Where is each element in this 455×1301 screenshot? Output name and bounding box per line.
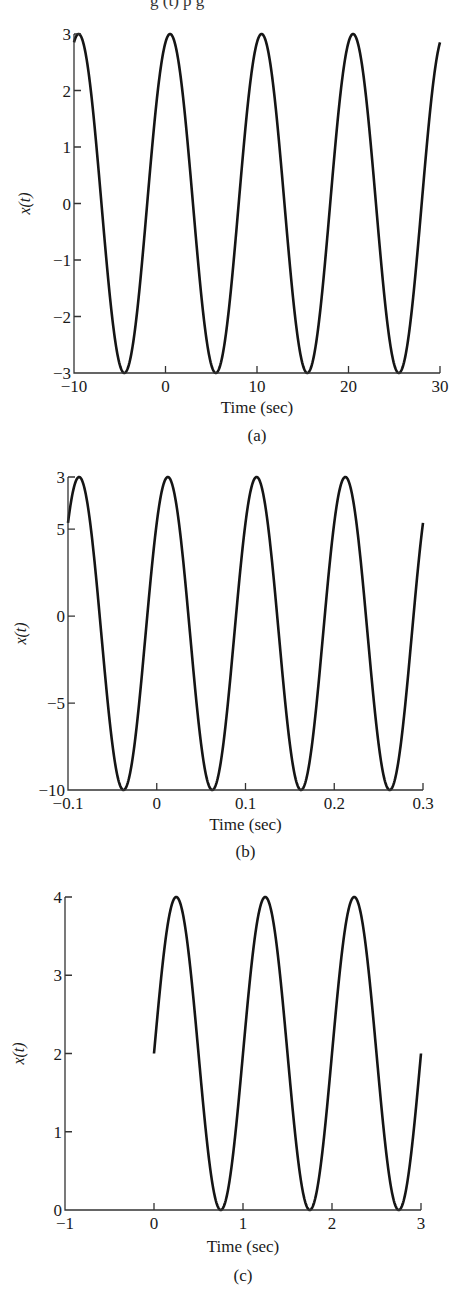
figure-canvas: 3210−1−2−3 −100102030 Time (sec) x(t) (a… [0,0,455,1301]
x-tick-label: −10 [61,377,88,396]
x-tick-label: 0.1 [235,794,256,813]
y-tick-labels-b: 350−5−10 [38,468,65,800]
x-tick-label: 0.2 [324,794,345,813]
x-axis-title-c: Time (sec) [207,1237,280,1256]
y-tick-label: 4 [54,888,63,907]
curve-b [68,477,423,790]
y-tick-label: 5 [57,520,66,539]
y-tick-label: −2 [53,308,71,327]
x-tick-label: 0 [153,794,162,813]
x-tick-label: 30 [432,377,449,396]
chart-a: 3210−1−2−3 −100102030 Time (sec) x(t) (a… [16,25,449,445]
caption-a: (a) [248,426,267,445]
y-tick-label: 2 [54,1045,63,1064]
x-tick-label: −1 [56,1214,74,1233]
y-axis-title-c: x(t) [10,1042,28,1065]
y-tick-label: 1 [63,138,72,157]
x-tick-label: 2 [328,1214,337,1233]
caption-b: (b) [236,842,256,861]
curve-c [154,897,421,1210]
chart-c: 43210 −10123 Time (sec) x(t) (c) [10,888,425,1285]
caption-c: (c) [234,1266,253,1285]
x-tick-label: 1 [239,1214,248,1233]
y-tick-label: 1 [54,1123,63,1142]
y-tick-label: 2 [63,82,72,101]
y-tick-label: 3 [57,468,66,487]
x-tick-label: 20 [340,377,357,396]
y-tick-label: −1 [53,251,71,270]
y-axis-title-a: x(t) [16,192,34,215]
y-tick-label: 0 [57,607,66,626]
y-tick-label: −5 [47,694,65,713]
chart-b: 350−5−10 −0.100.10.20.3 Time (sec) x(t) … [12,468,434,861]
x-tick-label: 0 [150,1214,159,1233]
x-tick-label: 0.3 [412,794,433,813]
y-tick-label: 0 [63,195,72,214]
axes-a [74,34,440,373]
x-tick-label: 10 [249,377,266,396]
x-tick-labels-b: −0.100.10.20.3 [53,794,434,813]
y-tick-labels-c: 43210 [54,888,63,1220]
y-tick-labels-a: 3210−1−2−3 [53,25,71,383]
x-tick-labels-a: −100102030 [61,377,449,396]
y-tick-label: 3 [54,966,63,985]
x-tick-labels-c: −10123 [56,1214,425,1233]
x-axis-title-b: Time (sec) [209,815,282,834]
y-axis-title-b: x(t) [12,622,30,645]
x-tick-label: 0 [161,377,170,396]
x-tick-label: 3 [417,1214,426,1233]
x-axis-title-a: Time (sec) [221,398,294,417]
y-tick-label: 3 [63,25,72,44]
curve-a [74,34,440,373]
x-tick-label: −0.1 [53,794,84,813]
